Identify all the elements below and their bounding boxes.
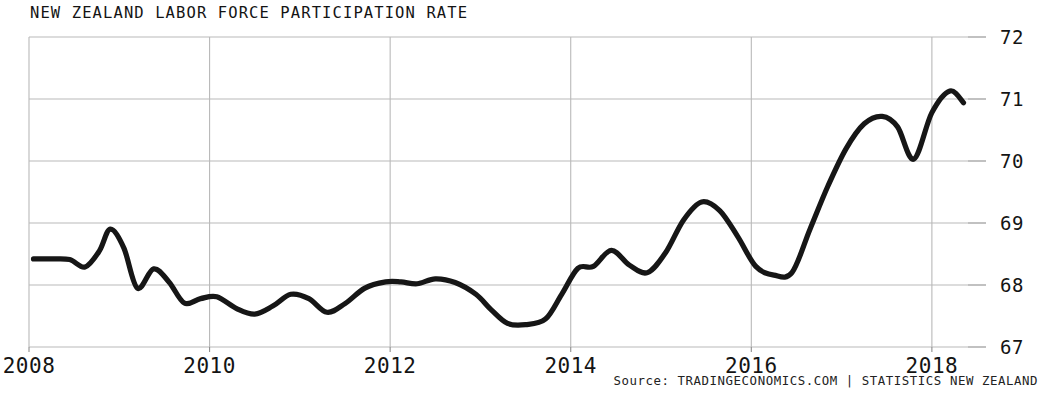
x-axis-label: 2008: [3, 354, 56, 378]
x-axis-label: 2014: [544, 354, 597, 378]
x-axis-label: 2010: [183, 354, 236, 378]
y-axis-label: 68: [1000, 274, 1024, 296]
y-axis-label: 70: [1000, 150, 1024, 172]
chart-plot-svg: 676869707172 200820102012201420162018: [0, 0, 1040, 394]
series-path: [34, 91, 964, 325]
y-axis-label: 72: [1000, 26, 1024, 48]
source-provider: STATISTICS NEW ZEALAND: [862, 373, 1038, 388]
y-axis-label: 67: [1000, 336, 1024, 358]
chart-container: NEW ZEALAND LABOR FORCE PARTICIPATION RA…: [0, 0, 1040, 394]
x-axis-label: 2012: [364, 354, 417, 378]
y-axis-tick-marks: [968, 37, 986, 347]
source-attribution: Source: TRADINGECONOMICS.COM | STATISTIC…: [613, 373, 1038, 388]
x-axis-tick-marks: [29, 347, 932, 352]
data-series-line: [34, 91, 964, 325]
y-axis-label: 69: [1000, 212, 1024, 234]
source-prefix: Source:: [613, 373, 669, 388]
source-attribution-site: TRADINGECONOMICS.COM: [678, 373, 838, 388]
y-axis-labels: 676869707172: [1000, 26, 1024, 358]
source-separator: |: [846, 373, 854, 388]
y-axis-label: 71: [1000, 88, 1024, 110]
